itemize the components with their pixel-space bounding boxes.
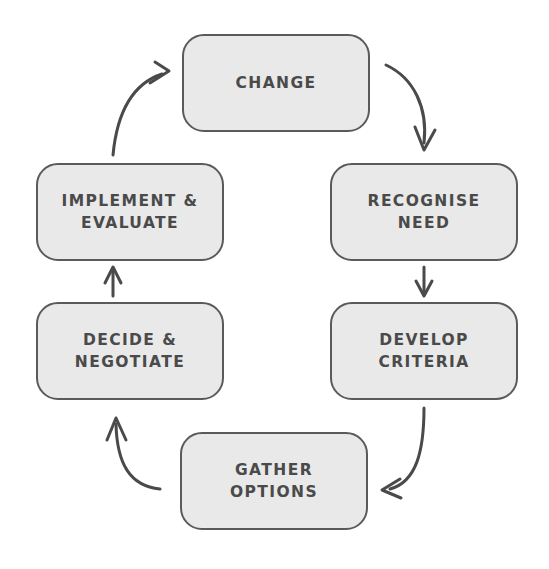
node-change[interactable]: CHANGE <box>182 34 370 132</box>
arrow-implement-to-change <box>113 62 169 155</box>
node-decide-negotiate-label: DECIDE & NEGOTIATE <box>75 329 185 373</box>
node-recognise-need[interactable]: RECOGNISE NEED <box>330 163 518 261</box>
arrow-develop-to-gather <box>382 408 424 498</box>
arrow-change-to-recognise <box>386 65 435 150</box>
node-implement-evaluate[interactable]: IMPLEMENT & EVALUATE <box>36 163 224 261</box>
node-recognise-need-label: RECOGNISE NEED <box>368 190 481 234</box>
change-cycle-diagram: CHANGE RECOGNISE NEED DEVELOP CRITERIA G… <box>0 0 549 569</box>
arrow-recognise-to-develop <box>416 267 432 296</box>
node-gather-options[interactable]: GATHER OPTIONS <box>180 432 368 530</box>
node-develop-criteria[interactable]: DEVELOP CRITERIA <box>330 302 518 400</box>
node-implement-evaluate-label: IMPLEMENT & EVALUATE <box>62 190 199 234</box>
arrow-decide-to-implement <box>105 267 121 296</box>
arrow-gather-to-decide <box>107 418 160 489</box>
node-decide-negotiate[interactable]: DECIDE & NEGOTIATE <box>36 302 224 400</box>
node-gather-options-label: GATHER OPTIONS <box>230 459 318 503</box>
node-develop-criteria-label: DEVELOP CRITERIA <box>378 329 469 373</box>
node-change-label: CHANGE <box>235 72 316 94</box>
